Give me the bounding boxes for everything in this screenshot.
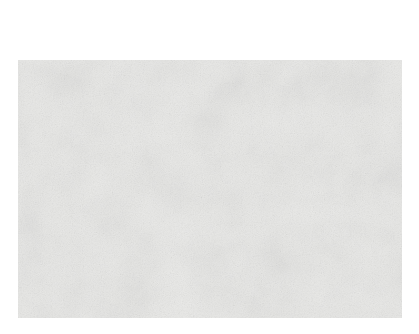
figure-root: [0, 0, 419, 334]
tissue-texture: [18, 60, 402, 318]
micrograph-image: [18, 60, 402, 318]
